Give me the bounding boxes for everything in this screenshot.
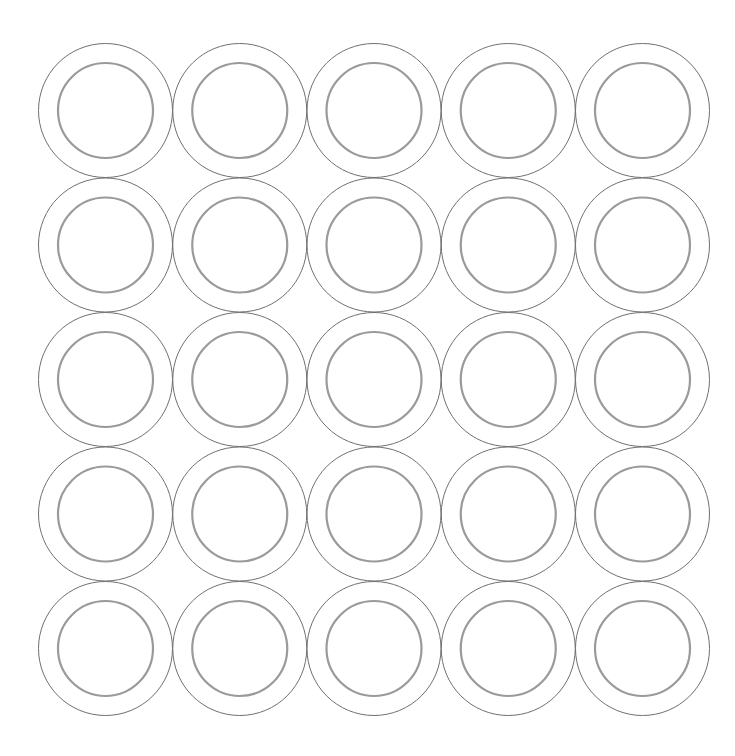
ring-grid-canvas	[0, 0, 735, 756]
background	[0, 0, 735, 756]
